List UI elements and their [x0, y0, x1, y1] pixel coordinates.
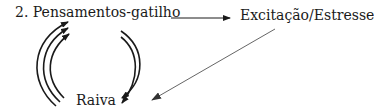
arrows-triggers-to-anger — [121, 31, 140, 103]
arrows-anger-to-triggers — [37, 22, 69, 106]
arrow-arousal-to-anger — [152, 29, 275, 100]
